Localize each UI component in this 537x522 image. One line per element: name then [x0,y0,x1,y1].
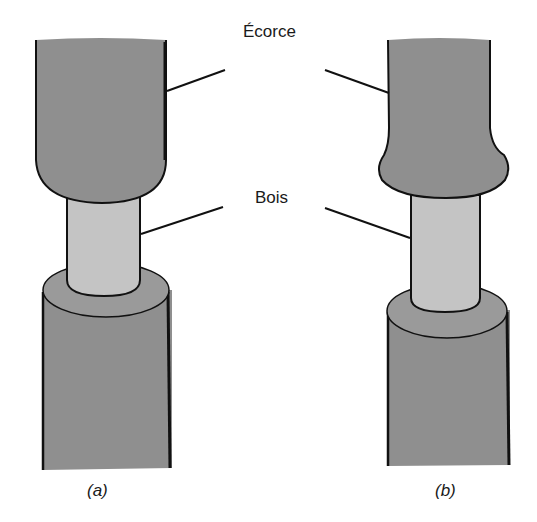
wood-label: Bois [255,188,288,208]
figure-b-wood-leader [325,208,410,238]
figure-a-upper-bark [36,38,166,203]
bark-label: Écorce [243,22,296,42]
figure-a-wood [67,195,140,296]
figure-a [36,38,225,470]
figure-b [325,38,510,466]
caption-b: (b) [435,481,456,501]
caption-a: (a) [87,481,108,501]
figure-b-bark-leader [325,70,389,93]
figure-b-wood [411,195,480,312]
figure-a-bark-leader [167,70,225,91]
girdling-diagram [0,0,537,522]
figure-a-wood-leader [141,207,223,234]
figure-b-upper-bark [379,38,508,198]
